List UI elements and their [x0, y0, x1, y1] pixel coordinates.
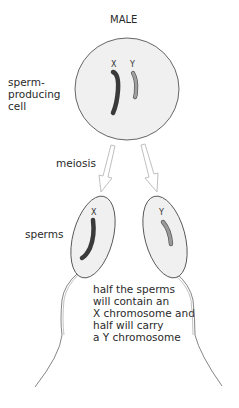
sperm-producing-cell: X Y	[75, 38, 179, 140]
sperm-x: X	[35, 191, 123, 387]
x-chromosome-label: X	[111, 60, 117, 69]
x-chromosome-label: X	[91, 208, 97, 217]
sperm-y: Y	[135, 191, 222, 386]
y-chromosome-label: Y	[129, 60, 135, 69]
sperm-tail-icon	[35, 273, 78, 387]
diagram-canvas: X Y X Y	[0, 0, 239, 408]
arrow-right-icon	[141, 144, 158, 192]
sperm-tail-icon	[176, 273, 222, 386]
y-chromosome-label: Y	[158, 208, 164, 217]
arrow-left-icon	[99, 145, 115, 192]
